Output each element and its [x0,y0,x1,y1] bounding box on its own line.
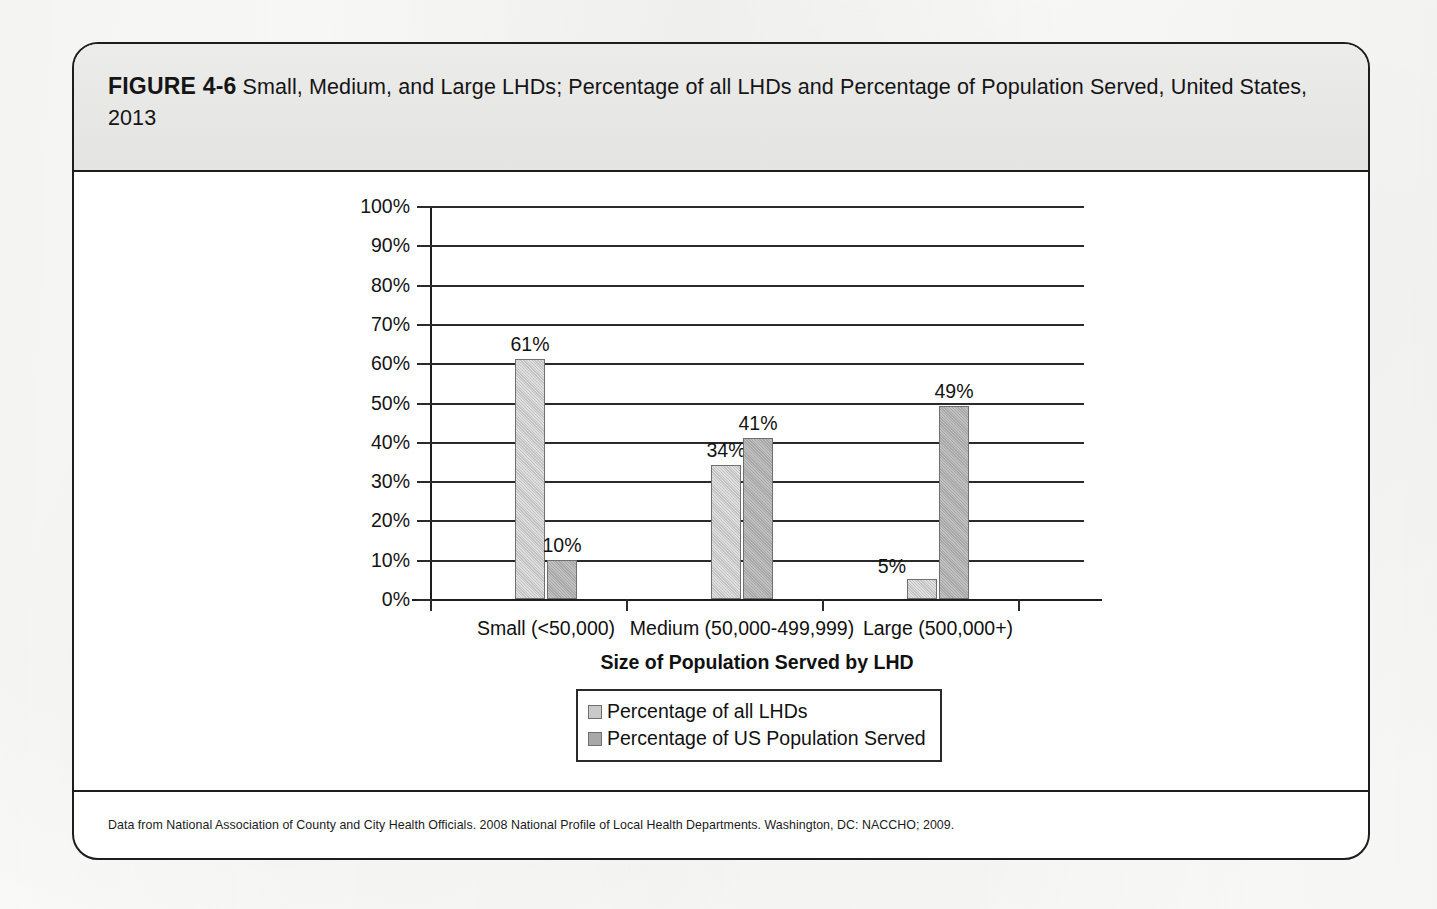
y-axis-tick [417,285,430,287]
x-axis-title: Size of Population Served by LHD [600,651,913,674]
y-axis-label: 90% [371,234,410,257]
bar-population-served: 10% [547,560,577,599]
bar-population-served: 49% [939,406,969,599]
bar-value-label: 34% [706,439,745,462]
bar-value-label: 61% [510,333,549,356]
legend-item: Percentage of US Population Served [588,725,926,752]
y-axis-tick [417,599,430,601]
bar-population-served: 41% [743,438,773,599]
y-axis-label: 10% [371,548,410,571]
plot-area: 0%10%20%30%40%50%60%70%80%90%100%61%10%S… [430,206,1084,599]
legend-swatch-icon [588,705,602,719]
y-axis-label: 50% [371,391,410,414]
bar-all-lhds: 61% [515,359,545,599]
y-axis-tick [417,206,430,208]
gridline [430,285,1084,287]
x-axis-tick [1018,599,1020,611]
y-axis-tick [417,520,430,522]
figure-number: FIGURE 4-6 [108,73,237,99]
y-axis-tick [417,560,430,562]
gridline [430,206,1084,208]
y-axis-label: 80% [371,273,410,296]
y-axis-label: 60% [371,352,410,375]
legend-item: Percentage of all LHDs [588,698,926,725]
legend-label: Percentage of all LHDs [607,700,808,723]
x-axis-tick [430,599,432,611]
figure-footer: Data from National Association of County… [74,792,1368,858]
figure-card: FIGURE 4-6 Small, Medium, and Large LHDs… [72,42,1370,860]
bar-chart: 0%10%20%30%40%50%60%70%80%90%100%61%10%S… [74,172,1370,792]
x-axis-category-label: Medium (50,000-499,999) [630,617,854,640]
bar-value-label: 10% [542,534,581,557]
figure-body: 0%10%20%30%40%50%60%70%80%90%100%61%10%S… [74,172,1368,792]
figure-caption: FIGURE 4-6 Small, Medium, and Large LHDs… [108,71,1330,134]
x-axis-category-label: Large (500,000+) [863,617,1013,640]
gridline [430,324,1084,326]
bar-all-lhds: 5% [907,579,937,599]
y-axis-tick [417,324,430,326]
y-axis-label: 20% [371,509,410,532]
bar-value-label: 41% [738,412,777,435]
y-axis-tick [417,245,430,247]
legend-label: Percentage of US Population Served [607,727,926,750]
bar-all-lhds: 34% [711,465,741,599]
figure-header: FIGURE 4-6 Small, Medium, and Large LHDs… [74,44,1368,172]
x-axis-tick [822,599,824,611]
y-axis-label: 30% [371,470,410,493]
y-axis-label: 100% [360,195,410,218]
gridline [430,245,1084,247]
chart-legend: Percentage of all LHDs Percentage of US … [576,689,942,762]
y-axis-tick [417,442,430,444]
x-axis-category-label: Small (<50,000) [477,617,615,640]
figure-title-text: Small, Medium, and Large LHDs; Percentag… [108,75,1307,130]
y-axis-label: 40% [371,430,410,453]
y-axis-label: 70% [371,312,410,335]
y-axis-tick [417,363,430,365]
source-citation: Data from National Association of County… [108,818,1334,832]
y-axis-tick [417,403,430,405]
y-axis-tick [417,481,430,483]
y-axis-label: 0% [382,588,410,611]
bar-value-label: 49% [934,380,973,403]
x-axis [412,599,1102,601]
bar-value-label: 5% [878,555,906,578]
legend-swatch-icon [588,732,602,746]
x-axis-tick [626,599,628,611]
